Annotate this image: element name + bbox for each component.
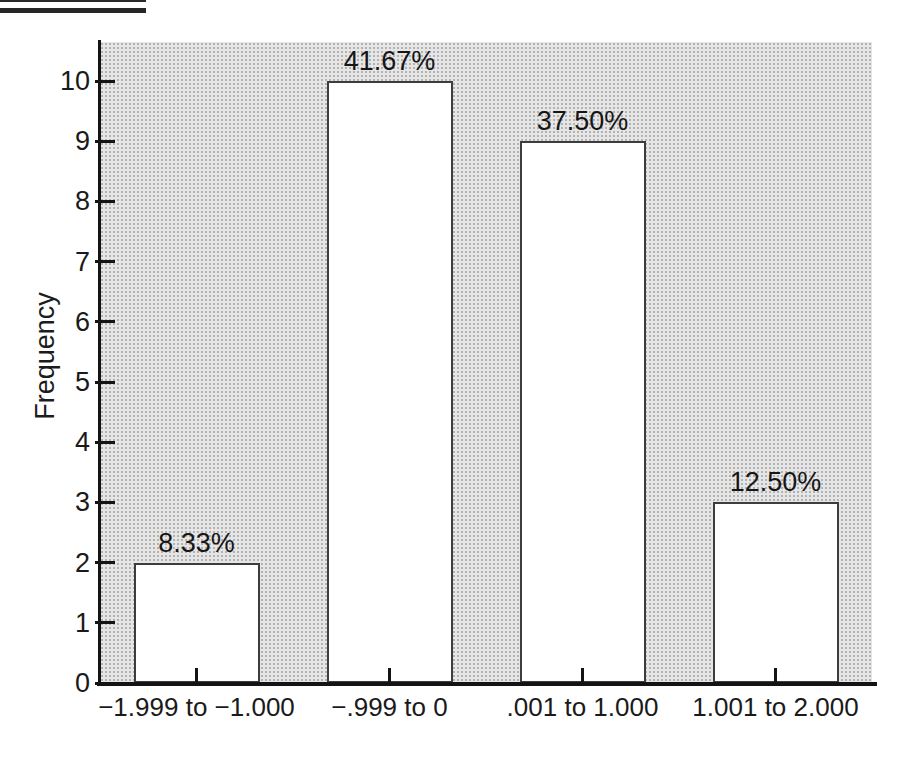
y-axis (98, 40, 101, 686)
y-tick-label: 7 (28, 246, 90, 278)
bar-value-label: 41.67% (305, 45, 475, 77)
bar-value-label: 12.50% (691, 466, 861, 498)
y-axis-tick (95, 140, 115, 143)
bar (327, 81, 453, 683)
x-axis-tick (195, 668, 198, 683)
x-axis (97, 682, 877, 686)
y-tick-label: 4 (28, 426, 90, 458)
frequency-histogram: Frequency 0123456789108.33%−1.999 to −1.… (0, 0, 904, 760)
y-axis-tick (95, 441, 115, 444)
x-category-label: 1.001 to 2.000 (656, 691, 896, 723)
y-tick-label: 8 (28, 185, 90, 217)
y-axis-tick (95, 260, 115, 263)
y-tick-label: 9 (28, 125, 90, 157)
y-axis-tick (95, 621, 115, 624)
bar (713, 502, 839, 683)
y-tick-label: 2 (28, 547, 90, 579)
y-tick-label: 1 (28, 607, 90, 639)
bar (520, 141, 646, 683)
y-axis-tick (95, 320, 115, 323)
x-axis-tick (581, 668, 584, 683)
y-tick-label: 3 (28, 486, 90, 518)
y-axis-tick (95, 200, 115, 203)
y-axis-tick (95, 381, 115, 384)
y-tick-label: 5 (28, 366, 90, 398)
x-axis-tick (774, 668, 777, 683)
x-axis-tick (388, 668, 391, 683)
bar (134, 563, 260, 683)
y-tick-label: 10 (28, 65, 90, 97)
y-axis-tick (95, 682, 115, 685)
bar-value-label: 8.33% (112, 527, 282, 559)
scanned-chart-page: Frequency 0123456789108.33%−1.999 to −1.… (0, 0, 904, 760)
y-axis-tick (95, 561, 115, 564)
bar-value-label: 37.50% (498, 105, 668, 137)
y-tick-label: 6 (28, 306, 90, 338)
y-axis-tick (95, 80, 115, 83)
y-axis-tick (95, 501, 115, 504)
